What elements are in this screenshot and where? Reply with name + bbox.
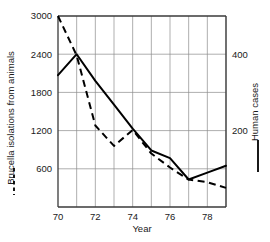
x-tick-74: 74 <box>127 211 138 222</box>
x-tick-72: 72 <box>90 211 101 222</box>
x-tick-78: 78 <box>202 211 213 222</box>
left-tick-600: 600 <box>36 163 52 174</box>
x-tick-76: 76 <box>165 211 176 222</box>
plot-background <box>58 16 226 207</box>
right-tick-400: 400 <box>232 49 248 60</box>
x-axis-title: Year <box>132 223 151 234</box>
left-tick-1800: 1800 <box>31 87 52 98</box>
left-axis-tick-labels: 6001200180024003000 <box>31 10 52 174</box>
right-axis-title: Human cases <box>249 83 260 141</box>
x-tick-70: 70 <box>53 211 64 222</box>
plot-frame <box>58 16 226 207</box>
right-axis-tick-labels: 200400 <box>232 49 248 136</box>
left-tick-1200: 1200 <box>31 125 52 136</box>
left-axis-title: Brucella isolations from animals <box>5 51 16 185</box>
brucella-human-cases-chart: 6001200180024003000 200400 7072747678 Ye… <box>0 0 270 242</box>
left-tick-3000: 3000 <box>31 10 52 21</box>
chart-canvas: 6001200180024003000 200400 7072747678 Ye… <box>0 0 270 242</box>
right-tick-200: 200 <box>232 125 248 136</box>
x-axis-tick-labels: 7072747678 <box>53 211 213 222</box>
left-tick-2400: 2400 <box>31 49 52 60</box>
